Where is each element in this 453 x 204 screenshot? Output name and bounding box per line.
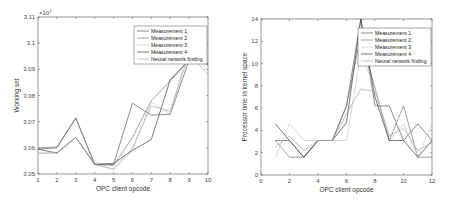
legend-label: Measurement 1 [375, 30, 411, 36]
y-tick-label: 3.1 [27, 40, 36, 46]
figure: 123456789103.053.063.073.083.093.13.11×1… [0, 0, 453, 204]
y-tick-label: 12 [251, 38, 258, 44]
y-tick-label: 3.06 [23, 145, 35, 151]
y-exponent-label: ×107 [39, 9, 52, 16]
x-tick-label: 9 [187, 177, 191, 183]
x-tick-label: 2 [288, 178, 292, 184]
x-tick-label: 8 [169, 177, 173, 183]
legend-label: Measurement 4 [151, 49, 187, 55]
x-tick-label: 10 [400, 178, 407, 184]
y-tick-label: 3.09 [23, 66, 35, 72]
y-tick-label: 14 [251, 16, 258, 22]
x-tick-label: 6 [345, 178, 349, 184]
y-tick-label: 8 [255, 83, 259, 89]
legend-label: Measurement 2 [151, 35, 187, 41]
legend-label: Measurement 1 [151, 28, 187, 34]
y-tick-label: 2 [255, 150, 259, 156]
x-tick-label: 4 [93, 177, 97, 183]
x-tick-label: 12 [429, 178, 436, 184]
legend-label: Neural network finding [375, 58, 427, 64]
x-tick-label: 10 [205, 177, 212, 183]
y-tick-label: 4 [255, 127, 259, 133]
x-tick-label: 6 [131, 177, 135, 183]
kernel-time-chart: 02468101202468101214OPC client opcodePro… [241, 16, 436, 194]
y-tick-label: 3.08 [23, 93, 35, 99]
legend-label: Neural network finding [151, 56, 203, 62]
x-axis-label: OPC client opcode [319, 186, 374, 194]
legend-label: Measurement 4 [375, 51, 411, 57]
x-tick-label: 5 [112, 177, 116, 183]
x-tick-label: 4 [316, 178, 320, 184]
x-axis-label: OPC client opcode [96, 185, 151, 193]
y-tick-label: 10 [251, 61, 258, 67]
working-set-chart: 123456789103.053.063.073.083.093.13.11×1… [13, 9, 212, 193]
y-tick-label: 3.07 [23, 119, 35, 125]
y-axis-label: Working set [13, 78, 21, 112]
legend-label: Measurement 3 [375, 44, 411, 50]
x-tick-label: 7 [150, 177, 154, 183]
legend: Measurement 1Measurement 2Measurement 3M… [358, 28, 431, 66]
y-tick-label: 3.05 [23, 171, 35, 177]
x-tick-label: 1 [36, 177, 40, 183]
y-axis-label: Processor time in kernel space [241, 52, 249, 141]
legend-label: Measurement 3 [151, 42, 187, 48]
x-tick-label: 8 [373, 178, 377, 184]
x-tick-label: 0 [259, 178, 263, 184]
legend: Measurement 1Measurement 2Measurement 3M… [134, 26, 207, 64]
y-tick-label: 6 [255, 105, 259, 111]
x-tick-label: 3 [74, 177, 78, 183]
y-tick-label: 3.11 [24, 14, 36, 20]
y-tick-label: 0 [255, 172, 259, 178]
legend-label: Measurement 2 [375, 37, 411, 43]
x-tick-label: 2 [55, 177, 59, 183]
